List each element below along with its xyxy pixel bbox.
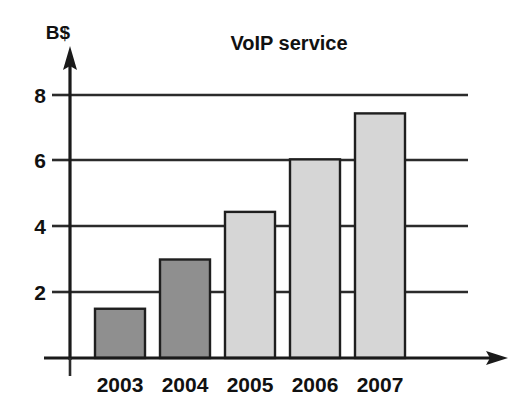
- y-axis-unit-label: B$: [46, 22, 71, 43]
- y-tick-marks: [52, 95, 70, 292]
- y-tick-label-4: 4: [34, 215, 46, 238]
- y-tick-label-2: 2: [34, 281, 46, 304]
- chart-canvas: VoIP service B$ 8 6 4 2: [0, 0, 532, 406]
- voip-service-bar-chart: VoIP service B$ 8 6 4 2: [0, 0, 532, 406]
- y-tick-label-8: 8: [34, 84, 46, 107]
- x-tick-label-2006: 2006: [292, 373, 339, 396]
- x-tick-label-2003: 2003: [97, 373, 144, 396]
- x-tick-label-2005: 2005: [227, 373, 274, 396]
- chart-title: VoIP service: [230, 32, 347, 54]
- x-tick-label-2007: 2007: [357, 373, 404, 396]
- y-tick-labels: 8 6 4 2: [34, 84, 46, 304]
- bar-2007: [355, 113, 405, 358]
- y-tick-label-6: 6: [34, 149, 46, 172]
- x-tick-labels: 20032004200520062007: [97, 373, 404, 396]
- bar-2004: [160, 260, 210, 359]
- bars-group: [95, 113, 405, 358]
- y-axis: [63, 46, 77, 360]
- x-tick-label-2004: 2004: [162, 373, 209, 396]
- bar-2003: [95, 309, 145, 358]
- bar-2006: [290, 159, 340, 358]
- bar-2005: [225, 212, 275, 358]
